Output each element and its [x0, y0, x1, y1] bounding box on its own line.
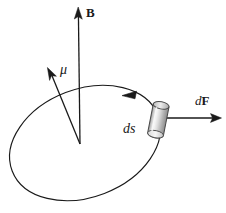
current-element-cylinder	[147, 100, 170, 139]
loop-direction-arrowhead	[122, 91, 137, 99]
magnetic-field-arrow	[74, 7, 82, 144]
force-label-F: F	[202, 93, 210, 108]
magnetic-field-label: B	[86, 6, 95, 19]
physics-diagram-figure: B μ dF ds	[0, 0, 226, 213]
current-loop	[0, 65, 177, 213]
path-element-label: ds	[123, 122, 135, 136]
magnetic-moment-arrow	[47, 68, 80, 145]
magnetic-moment-label: μ	[60, 63, 67, 77]
force-arrow	[166, 114, 222, 123]
force-label: dF	[195, 94, 209, 107]
diagram-canvas	[0, 0, 226, 213]
